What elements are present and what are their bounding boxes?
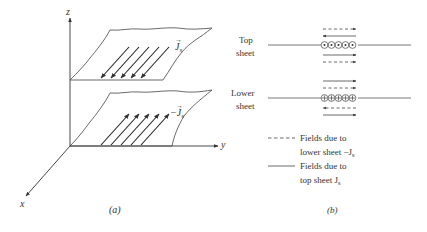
legend-dashed-text-1: Fields due to [300, 133, 347, 143]
lower-sheet [70, 90, 212, 146]
x-axis-label: x [19, 198, 25, 209]
panel-b: Top sheet Lower sheet Fields due [231, 29, 411, 215]
lower-sheet-label-2: sheet [236, 101, 255, 111]
figure: z y x Js → −Js → (a) [0, 0, 427, 232]
legend-solid-text-2: top sheet Js [300, 175, 341, 186]
legend-dashed-text-2: lower sheet −Js [300, 147, 355, 158]
caption-a: (a) [109, 204, 121, 216]
top-sheet [70, 28, 212, 80]
y-axis-label: y [220, 139, 226, 150]
lower-sheet-label-1: Lower [231, 88, 255, 98]
vector-arrow-lower: → [176, 102, 183, 110]
vector-arrow-top: → [175, 36, 182, 44]
top-sheet-label-1: Top [239, 35, 253, 45]
caption-b: (b) [327, 205, 338, 215]
legend-solid-text-1: Fields due to [300, 161, 347, 171]
top-sheet-label-2: sheet [236, 48, 255, 58]
top-sheet-dots-out [321, 42, 356, 49]
lower-current-arrows [101, 114, 169, 145]
x-axis [26, 146, 70, 196]
panel-a: z y x Js → −Js → (a) [19, 6, 226, 216]
z-axis-label: z [65, 6, 70, 17]
lower-sheet-crosses-in [321, 95, 356, 102]
top-current-arrows [101, 47, 169, 78]
